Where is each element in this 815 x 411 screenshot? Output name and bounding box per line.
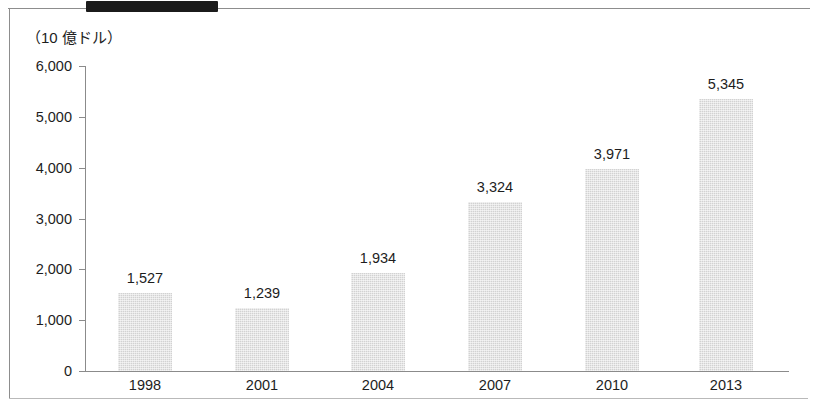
x-axis-tick-label-1998: 1998 (100, 377, 190, 393)
bar-value-label-2013: 5,345 (676, 76, 776, 92)
x-axis-tick-label-2001: 2001 (217, 377, 307, 393)
bar-2007 (468, 202, 522, 371)
y-axis-tick-label: 6,000 (14, 58, 72, 74)
y-axis-tick-mark (79, 269, 85, 270)
x-axis-tick-label-2010: 2010 (567, 377, 657, 393)
y-axis-tick-mark (79, 117, 85, 118)
y-axis-tick-mark (79, 320, 85, 321)
bar-value-label-2001: 1,239 (212, 285, 312, 301)
y-axis-tick-label: 1,000 (14, 312, 72, 328)
y-axis-tick-mark (79, 219, 85, 220)
y-axis-line (85, 66, 86, 372)
y-axis-tick-label: 4,000 (14, 160, 72, 176)
bar-value-label-2010: 3,971 (562, 146, 662, 162)
bar-2001 (235, 308, 289, 371)
bar-2010 (585, 169, 639, 371)
bar-chart: （10 億ドル） 01,0002,0003,0004,0005,0006,000… (0, 0, 815, 411)
y-axis-tick-mark (79, 371, 85, 372)
bar-value-label-2007: 3,324 (445, 179, 545, 195)
y-axis-unit-label: （10 億ドル） (26, 26, 122, 47)
bar-2004 (351, 273, 405, 371)
x-axis-tick-label-2007: 2007 (450, 377, 540, 393)
y-axis-tick-mark (79, 66, 85, 67)
y-axis-tick-mark (79, 168, 85, 169)
bar-value-label-2004: 1,934 (328, 250, 428, 266)
y-axis-tick-label: 2,000 (14, 261, 72, 277)
x-axis-line (85, 371, 789, 372)
x-axis-tick-label-2013: 2013 (681, 377, 771, 393)
bar-value-label-1998: 1,527 (95, 270, 195, 286)
y-axis-tick-label: 3,000 (14, 211, 72, 227)
bar-1998 (118, 293, 172, 371)
chart-screenshot: （10 億ドル） 01,0002,0003,0004,0005,0006,000… (0, 0, 815, 411)
x-axis-tick-label-2004: 2004 (333, 377, 423, 393)
y-axis-tick-label: 0 (14, 363, 72, 379)
bar-2013 (699, 99, 753, 371)
y-axis-tick-label: 5,000 (14, 109, 72, 125)
